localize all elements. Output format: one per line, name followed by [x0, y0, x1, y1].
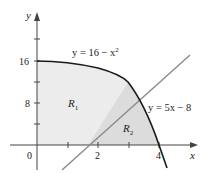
x-axis-arrow-icon [190, 142, 198, 148]
y-axis-arrow-icon [34, 12, 40, 21]
y-axis-label: y [25, 9, 31, 21]
y-tick-label-16: 16 [19, 56, 29, 67]
parabola-equation: y = 16 − x2 [72, 46, 119, 58]
y-tick-label-8: 8 [25, 98, 30, 109]
origin-label: 0 [27, 150, 32, 161]
line-equation: y = 5x − 8 [148, 102, 191, 113]
x-axis-label: x [189, 149, 195, 161]
x-tick-label-2: 2 [95, 150, 100, 161]
x-tick-label-4: 4 [156, 150, 161, 161]
diagram-canvas: y x 0 2 4 8 16 y = 16 − x2 y = 5x − 8 R1… [0, 0, 203, 174]
